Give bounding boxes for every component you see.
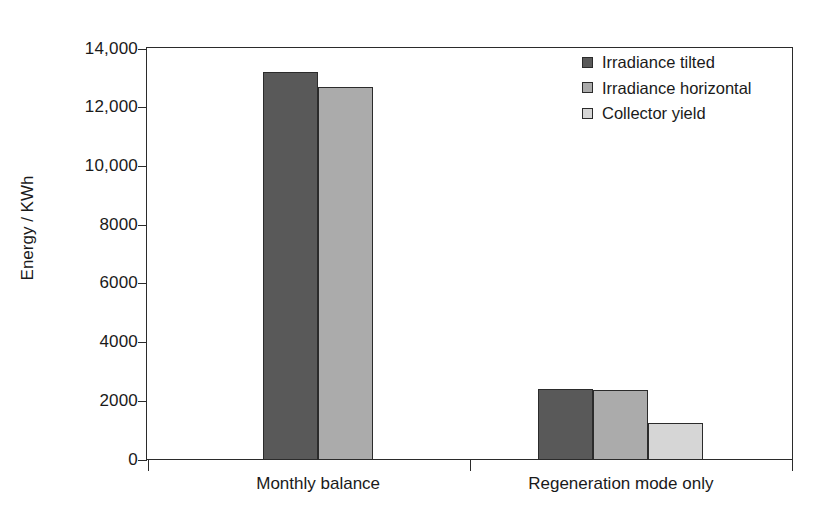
legend-item: Irradiance tilted <box>582 54 752 71</box>
y-axis-ticks: 0200040006000800010,00012,00014,000 <box>0 0 138 525</box>
y-tick-label: 10,000 <box>85 156 138 176</box>
y-tick-mark <box>138 283 147 284</box>
y-tick-label: 12,000 <box>85 97 138 117</box>
legend-item: Irradiance horizontal <box>582 80 752 97</box>
bar <box>263 72 318 460</box>
y-tick-label: 4000 <box>99 332 138 352</box>
y-tick-label: 14,000 <box>85 39 138 59</box>
bar <box>538 389 593 459</box>
legend-swatch-icon <box>582 82 593 93</box>
x-tick-mark <box>792 460 793 471</box>
bar <box>648 423 703 460</box>
bar <box>593 390 648 460</box>
y-tick-mark <box>138 342 147 343</box>
y-tick-label: 8000 <box>99 215 138 235</box>
legend: Irradiance tilted Irradiance horizontal … <box>574 48 760 135</box>
y-tick-mark <box>138 166 147 167</box>
y-tick-label: 2000 <box>99 391 138 411</box>
y-tick-mark <box>138 460 147 461</box>
y-tick-label: 6000 <box>99 273 138 293</box>
legend-swatch-icon <box>582 57 593 68</box>
x-category-label: Monthly balance <box>256 474 380 494</box>
y-tick-label: 0 <box>128 450 138 470</box>
legend-item-label: Irradiance horizontal <box>602 80 752 97</box>
y-tick-mark <box>138 401 147 402</box>
legend-swatch-icon <box>582 108 593 119</box>
chart-figure: Energy / KWh 0200040006000800010,00012,0… <box>0 0 836 525</box>
x-category-label: Regeneration mode only <box>528 474 713 494</box>
y-tick-mark <box>138 107 147 108</box>
y-tick-mark <box>138 49 147 50</box>
legend-item: Collector yield <box>582 105 752 122</box>
legend-item-label: Irradiance tilted <box>602 54 715 71</box>
y-tick-mark <box>138 225 147 226</box>
bar <box>318 87 373 460</box>
x-tick-mark <box>148 460 149 471</box>
legend-item-label: Collector yield <box>602 105 706 122</box>
x-tick-mark <box>470 460 471 471</box>
